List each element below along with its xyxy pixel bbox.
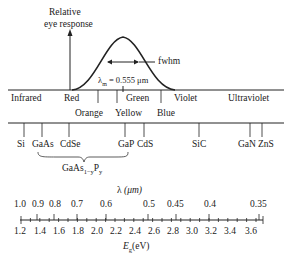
y-axis-label-line1: Relative bbox=[49, 8, 81, 18]
energy-tick: 2.4 bbox=[129, 227, 141, 237]
alloy-label: GaAs1−yPy bbox=[62, 164, 102, 175]
energy-tick: 3.6 bbox=[245, 227, 257, 237]
wavelength-axis-label: λ (μm) bbox=[117, 186, 142, 196]
semiconductor-gaas: GaAs bbox=[32, 140, 54, 150]
wavelength-tick: 0.45 bbox=[167, 200, 184, 210]
semiconductor-si: Si bbox=[17, 140, 25, 150]
semiconductor-zns: ZnS bbox=[258, 140, 274, 150]
y-axis-arrow-icon bbox=[68, 29, 73, 36]
energy-tick: 2.2 bbox=[110, 227, 122, 237]
energy-tick: 3.4 bbox=[224, 227, 236, 237]
alloy-brace bbox=[38, 152, 128, 162]
region-green: Green bbox=[126, 94, 149, 104]
energy-tick: 2.6 bbox=[148, 227, 160, 237]
peak-wavelength-label: λm = 0.555 μm bbox=[98, 76, 148, 87]
wavelength-tick: 0.8 bbox=[49, 200, 61, 210]
wavelength-tick: 0.7 bbox=[71, 200, 83, 210]
y-axis-label-line2: eye response bbox=[44, 20, 93, 30]
fwhm-label: fwhm bbox=[158, 57, 180, 67]
energy-axis-label: Eg(eV) bbox=[123, 242, 149, 253]
semiconductor-sic: SiC bbox=[192, 140, 206, 150]
wavelength-tick: 0.6 bbox=[100, 200, 112, 210]
energy-tick: 1.2 bbox=[14, 227, 26, 237]
wavelength-tick: 0.9 bbox=[32, 200, 44, 210]
semiconductor-gan: GaN bbox=[238, 140, 256, 150]
wavelength-tick: 0.35 bbox=[250, 200, 267, 210]
energy-tick: 1.8 bbox=[72, 227, 84, 237]
energy-tick: 1.4 bbox=[34, 227, 46, 237]
energy-tick: 2.8 bbox=[167, 227, 179, 237]
region-blue: Blue bbox=[157, 109, 175, 119]
wavelength-tick: 0.4 bbox=[204, 200, 216, 210]
region-infrared: Infrared bbox=[11, 94, 42, 104]
region-yellow: Yellow bbox=[115, 109, 142, 119]
semiconductor-gap: GaP bbox=[118, 140, 134, 150]
energy-tick: 3.0 bbox=[186, 227, 198, 237]
semiconductor-cdse: CdSe bbox=[60, 140, 81, 150]
diagram-graphics bbox=[0, 0, 289, 261]
region-red: Red bbox=[64, 94, 79, 104]
region-orange: Orange bbox=[75, 109, 103, 119]
wavelength-tick: 0.5 bbox=[143, 200, 155, 210]
energy-tick: 3.2 bbox=[205, 227, 217, 237]
semiconductor-cds: CdS bbox=[137, 140, 153, 150]
region-ultraviolet: Ultraviolet bbox=[228, 94, 269, 104]
wavelength-tick: 1.0 bbox=[14, 200, 26, 210]
energy-tick: 2.0 bbox=[91, 227, 103, 237]
region-violet: Violet bbox=[174, 94, 197, 104]
energy-tick: 1.6 bbox=[53, 227, 65, 237]
